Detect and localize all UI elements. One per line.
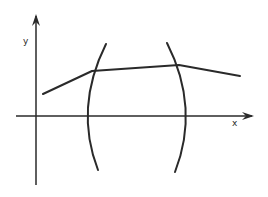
polyline-curve <box>43 65 240 94</box>
left-arc <box>88 44 106 170</box>
diagram-canvas: y x <box>0 0 268 197</box>
y-axis-label: y <box>23 37 28 46</box>
x-axis-label: x <box>232 119 237 128</box>
right-arc <box>167 43 186 172</box>
diagram-svg <box>0 0 268 197</box>
